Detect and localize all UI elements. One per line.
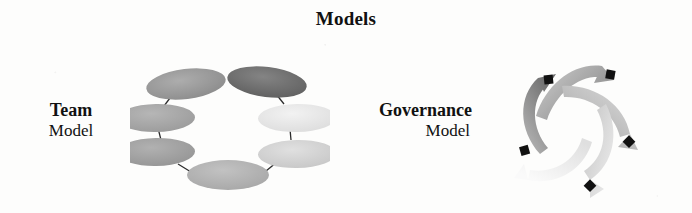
governance-label-line2: Model bbox=[340, 121, 472, 141]
swirl-arrow bbox=[514, 138, 592, 181]
ring-node bbox=[258, 103, 330, 132]
team-model-diagram bbox=[130, 52, 330, 192]
swirl-marker bbox=[544, 74, 554, 84]
team-model-label: Team Model bbox=[16, 100, 126, 141]
swirl-marker bbox=[519, 145, 530, 156]
figure-page: Models Team Model bbox=[0, 0, 692, 213]
team-label-line2: Model bbox=[16, 121, 126, 141]
ring-node bbox=[258, 139, 330, 168]
swirl-arrows bbox=[514, 66, 638, 198]
swirl-marker bbox=[605, 69, 615, 79]
ring-node bbox=[130, 137, 195, 166]
ring-node bbox=[144, 64, 227, 104]
ring-node bbox=[130, 103, 195, 132]
team-label-line1: Team bbox=[16, 100, 126, 121]
ring-nodes bbox=[130, 62, 330, 190]
ring-node bbox=[187, 160, 269, 190]
page-title: Models bbox=[0, 8, 692, 30]
governance-model-label: Governance Model bbox=[340, 100, 472, 141]
governance-label-line1: Governance bbox=[340, 100, 472, 121]
ring-node bbox=[225, 62, 308, 102]
governance-model-diagram bbox=[494, 50, 650, 200]
